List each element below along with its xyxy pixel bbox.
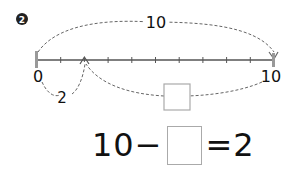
equation-equals: = [206, 126, 234, 164]
label-zero: 0 [33, 67, 43, 86]
label-ten: 10 [261, 67, 281, 86]
small-arc-label: 2 [57, 89, 67, 107]
equation-right: 2 [233, 126, 254, 164]
equation-operator: − [135, 126, 163, 164]
arc-answer-box[interactable] [164, 84, 190, 110]
top-arc-label: 10 [146, 13, 166, 32]
endpoint-zero [35, 51, 38, 68]
equation-answer-box[interactable] [167, 126, 202, 165]
equation-left: 10 [92, 126, 135, 164]
svg-text:2: 2 [19, 15, 25, 25]
problem-number-badge: 2 [16, 13, 28, 25]
endpoint-ten [272, 53, 275, 67]
equation: 10 − = 2 [92, 124, 255, 166]
